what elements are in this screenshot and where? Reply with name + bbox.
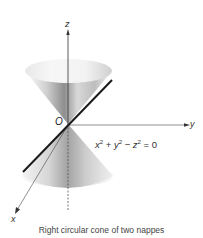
x-axis-label: x [11, 215, 16, 224]
cone-diagram: z O y x x2 + y2 − z2 = 0 Right circular … [0, 0, 203, 238]
y-axis-label: y [190, 120, 195, 129]
z-axis-label: z [65, 20, 70, 29]
figure-caption: Right circular cone of two nappes [0, 226, 203, 235]
y-axis [68, 123, 190, 126]
cone-illustration [0, 0, 203, 238]
eq-plus: + [103, 139, 114, 150]
upper-nappe [25, 59, 112, 124]
cone-equation: x2 + y2 − z2 = 0 [95, 139, 157, 150]
eq-minus: − [122, 139, 133, 150]
eq-rhs: = 0 [141, 139, 157, 150]
origin-label: O [55, 117, 63, 127]
